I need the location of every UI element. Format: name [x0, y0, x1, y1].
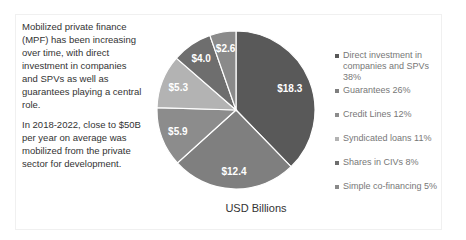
pie-chart-svg: $18.3$12.4$5.9$5.3$4.0$2.6 — [156, 30, 316, 190]
slice-value-label: $4.0 — [191, 53, 211, 64]
legend-label: Credit Lines 12% — [343, 109, 412, 120]
slice-value-label: $2.6 — [216, 43, 236, 54]
legend-item: Credit Lines 12% — [335, 109, 445, 120]
legend-label: Shares in CIVs 8% — [343, 157, 419, 168]
legend-label: Simple co-financing 5% — [343, 181, 437, 192]
legend-marker-icon — [335, 89, 339, 93]
legend-label: Direct investment in companies and SPVs … — [343, 50, 445, 83]
legend-item: Syndicated loans 11% — [335, 133, 445, 144]
legend-marker-icon — [335, 54, 339, 58]
legend-item: Shares in CIVs 8% — [335, 157, 445, 168]
description-paragraph-1: Mobilized private finance (MPF) has been… — [22, 20, 142, 111]
description-panel: Mobilized private finance (MPF) has been… — [22, 20, 142, 177]
pie-chart: $18.3$12.4$5.9$5.3$4.0$2.6 — [156, 30, 316, 190]
legend-label: Syndicated loans 11% — [343, 133, 431, 144]
slice-value-label: $12.4 — [221, 166, 246, 177]
slice-value-label: $5.9 — [168, 126, 188, 137]
legend-marker-icon — [335, 185, 339, 189]
slice-value-label: $18.3 — [277, 83, 302, 94]
slice-value-label: $5.3 — [169, 82, 189, 93]
legend-marker-icon — [335, 161, 339, 165]
legend-item: Direct investment in companies and SPVs … — [335, 50, 445, 83]
description-paragraph-2: In 2018-2022, close to $50B per year on … — [22, 118, 142, 170]
legend-item: Guarantees 26% — [335, 85, 445, 96]
legend-label: Guarantees 26% — [343, 85, 411, 96]
chart-caption: USD Billions — [208, 202, 304, 214]
chart-legend: Direct investment in companies and SPVs … — [335, 50, 445, 205]
legend-marker-icon — [335, 113, 339, 117]
legend-marker-icon — [335, 137, 339, 141]
legend-item: Simple co-financing 5% — [335, 181, 445, 192]
